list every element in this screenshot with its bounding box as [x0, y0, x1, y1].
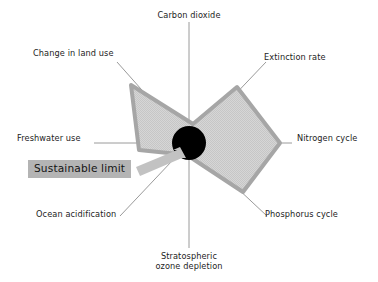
data-polygon-current-state [131, 85, 280, 192]
axis-label-nitrogen-cycle: Nitrogen cycle [297, 133, 357, 143]
planetary-boundaries-radar-figure: Carbon dioxide Change in land use Extinc… [0, 0, 378, 282]
axis-label-change-in-land-use: Change in land use [33, 48, 114, 58]
axis-label-carbon-dioxide: Carbon dioxide [0, 10, 378, 20]
axis-label-freshwater-use: Freshwater use [17, 133, 81, 143]
axis-label-ocean-acidification: Ocean acidification [36, 209, 116, 219]
axis-label-stratospheric-ozone-depletion: Stratosphericozone depletion [0, 251, 378, 271]
sustainable-limit-annotation-label: Sustainable limit [28, 160, 131, 178]
axis-label-phosphorus-cycle: Phosphorus cycle [265, 209, 338, 219]
axis-label-extinction-rate: Extinction rate [264, 52, 326, 62]
data-polygon-shape [131, 85, 280, 192]
ozone-label-line-1: Stratospheric [161, 251, 217, 261]
ozone-label-line-2: ozone depletion [155, 261, 222, 271]
